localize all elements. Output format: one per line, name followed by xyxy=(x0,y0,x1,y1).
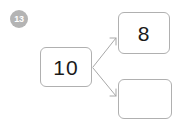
whole-box-value: 10 xyxy=(53,57,78,78)
connector-to-bottom-part-line xyxy=(93,68,116,96)
part-box-bottom[interactable] xyxy=(118,79,172,119)
connector-to-top-part-arrowhead xyxy=(110,38,116,45)
connector-to-top-part-line xyxy=(93,38,116,67)
connector-to-bottom-part-arrowhead xyxy=(110,89,116,96)
question-number-label: 13 xyxy=(14,15,23,24)
question-number-badge: 13 xyxy=(10,10,28,28)
part-box-top[interactable]: 8 xyxy=(118,12,170,54)
part-box-top-value: 8 xyxy=(138,23,151,44)
number-bond-diagram: 13 10 8 xyxy=(0,0,183,133)
whole-box[interactable]: 10 xyxy=(40,47,92,87)
